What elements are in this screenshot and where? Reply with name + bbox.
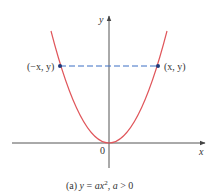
parabola-figure: (−x, y) (x, y) y x 0 (a) y = ax2, a > 0	[0, 0, 224, 196]
point-left-label: (−x, y)	[27, 61, 54, 73]
y-axis-label: y	[98, 14, 104, 25]
point-right-label: (x, y)	[164, 61, 186, 73]
point-left	[58, 64, 62, 68]
origin-label: 0	[100, 145, 105, 156]
x-axis-label: x	[198, 146, 204, 157]
point-right	[156, 64, 160, 68]
figure-caption: (a) y = ax2, a > 0	[66, 179, 133, 192]
